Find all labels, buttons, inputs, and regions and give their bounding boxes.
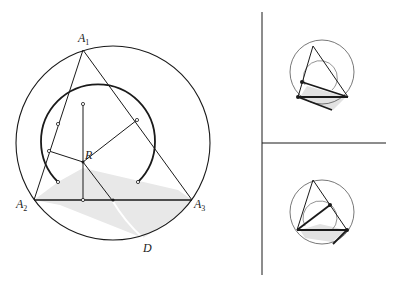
label-d: D (142, 241, 152, 255)
label-a3: A3 (193, 197, 205, 213)
geometry-figure: A1 A2 A3 R D (0, 0, 396, 288)
inset-point (328, 203, 332, 207)
label-a1: A1 (77, 31, 89, 47)
inset-point (345, 228, 349, 232)
inset-point (300, 80, 304, 84)
point-foot (111, 198, 114, 201)
inset-point (296, 95, 300, 99)
bottom-inset (290, 180, 354, 244)
label-r: R (84, 148, 93, 162)
top-inset (290, 40, 354, 110)
arc (41, 84, 155, 182)
inset-arc (303, 61, 337, 90)
label-a2: A2 (15, 197, 27, 213)
segment-r-left (49, 151, 83, 162)
main-diagram: A1 A2 A3 R D (15, 31, 210, 255)
inset-side (297, 180, 313, 230)
